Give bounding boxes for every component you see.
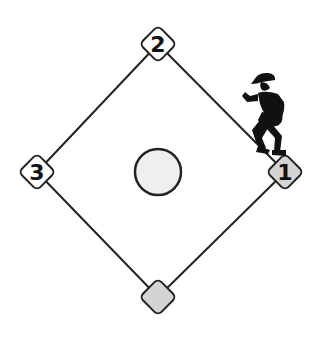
second-base-label: 2 <box>150 32 165 57</box>
baseball-runner-icon <box>242 73 286 156</box>
baseball-diamond: 2 3 1 <box>0 0 322 342</box>
third-base-label: 3 <box>29 160 44 185</box>
pitchers-mound <box>135 149 181 195</box>
first-base-label: 1 <box>277 160 292 185</box>
